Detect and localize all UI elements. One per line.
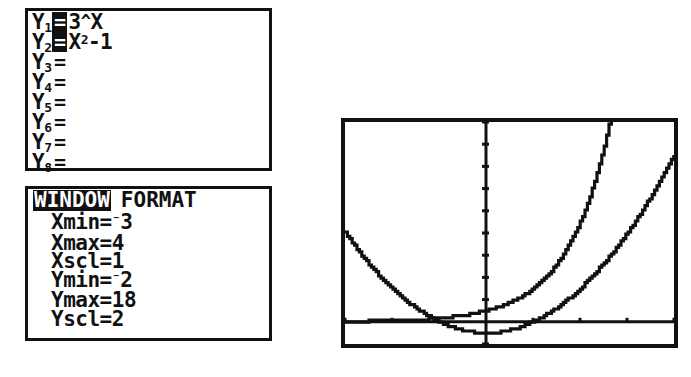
tab-window[interactable]: WINDOW [33,190,111,211]
y-editor-row-4[interactable]: Y4 = [32,72,267,92]
function-equals-toggle-y2[interactable]: = [52,32,67,52]
function-equals-toggle-y4[interactable]: = [52,72,67,92]
y-editor-row-6[interactable]: Y6 = [32,112,267,132]
y-editor-row-1[interactable]: Y1 = 3^X [32,12,267,32]
y-editor-row-3[interactable]: Y3 = [32,52,267,72]
graph-canvas [345,122,674,344]
window-variable-list: Xmin=⁻3 Xmax=4 Xscl=1 Ymin=⁻2 Ymax=18 Ys… [33,213,267,328]
window-var-yscl[interactable]: Yscl=2 [33,310,267,329]
function-equals-toggle-y7[interactable]: = [52,132,67,152]
y-editor-row-7[interactable]: Y7 = [32,132,267,152]
graph-plot-area[interactable] [345,122,674,344]
function-equals-toggle-y8[interactable]: = [52,152,67,172]
y-editor-function-list: Y1 = 3^X Y2 = X2-1 Y3 = Y4 = Y5 = Y6 = [32,12,267,166]
function-equals-toggle-y1[interactable]: = [52,12,67,32]
function-equals-toggle-y6[interactable]: = [52,112,67,132]
y-editor-row-2[interactable]: Y2 = X2-1 [32,32,267,52]
window-settings-screen[interactable]: WINDOW FORMAT Xmin=⁻3 Xmax=4 Xscl=1 Ymin… [25,186,272,341]
function-expression-y2[interactable]: X2-1 [68,32,112,55]
function-equals-toggle-y3[interactable]: = [52,52,67,72]
y-editor-row-5[interactable]: Y5 = [32,92,267,112]
window-screen-tabs: WINDOW FORMAT [33,190,197,211]
tab-format[interactable]: FORMAT [121,190,197,211]
function-equals-toggle-y5[interactable]: = [52,92,67,112]
y-editor-screen[interactable]: Y1 = 3^X Y2 = X2-1 Y3 = Y4 = Y5 = Y6 = [25,8,272,171]
function-label-y8: Y8 [32,152,51,175]
y-editor-row-8[interactable]: Y8 = [32,152,267,172]
graph-screen[interactable] [341,118,678,348]
graph-curves [345,122,674,333]
